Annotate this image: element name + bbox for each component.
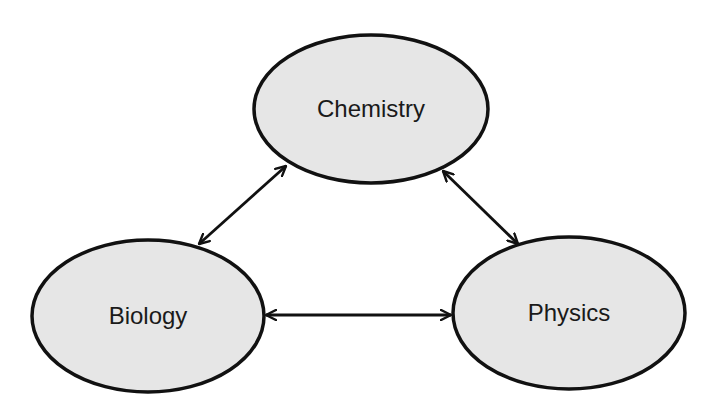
diagram-graphics: [0, 0, 717, 414]
edge-biology-chemistry: [199, 166, 286, 244]
concept-diagram: Chemistry Biology Physics: [0, 0, 717, 414]
node-biology-label: Biology: [109, 302, 188, 330]
node-physics-label: Physics: [528, 299, 611, 327]
nodes-group: [32, 35, 685, 392]
node-chemistry-label: Chemistry: [317, 95, 425, 123]
edge-chemistry-physics: [443, 171, 518, 244]
